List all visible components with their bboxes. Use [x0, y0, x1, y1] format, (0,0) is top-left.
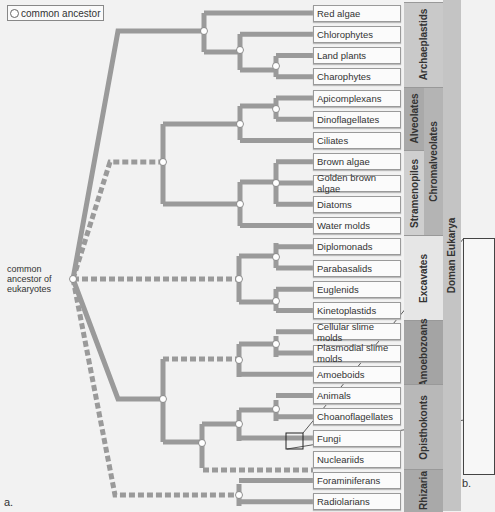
taxon-label: Diplomonads — [313, 238, 401, 255]
clade-label: Chromalveolates — [424, 87, 443, 236]
clade-label-text: Archaeplastids — [418, 9, 429, 81]
taxon-label: Charophytes — [313, 68, 401, 85]
taxon-label: Dinoflagellates — [313, 111, 401, 128]
clade-label: Excavates — [404, 235, 443, 320]
taxon-label: Nucleariids — [313, 451, 401, 468]
taxon-label: Plasmodial slime molds — [313, 345, 401, 362]
clade-label-text: Stramenopiles — [409, 159, 420, 228]
ancestor-node-icon — [273, 63, 280, 70]
clade-label: Rhizaria — [404, 469, 443, 512]
ancestor-node-icon — [273, 106, 280, 113]
ancestor-node-icon — [160, 396, 167, 403]
ancestor-node-icon — [236, 492, 243, 499]
branch — [73, 31, 204, 279]
taxon-label: Ciliates — [313, 132, 401, 149]
legend: common ancestor — [7, 5, 104, 21]
clade-label: Opisthokonts — [404, 384, 443, 469]
uncertain-branch — [73, 162, 163, 279]
taxon-label: Golden brown algae — [313, 175, 401, 192]
taxon-label: Apicomplexans — [313, 90, 401, 107]
ancestor-node-icon — [273, 341, 280, 348]
root-label-line: ancestor of — [7, 274, 52, 284]
root-label-line: eukaryotes — [7, 284, 52, 294]
taxon-label: Diatoms — [313, 196, 401, 213]
taxon-label: Animals — [313, 387, 401, 404]
ancestor-node-icon — [273, 180, 280, 187]
ancestor-node-icon — [236, 421, 243, 428]
branch — [73, 279, 163, 399]
ancestor-node-icon — [236, 357, 243, 364]
root-label: common ancestor of eukaryotes — [7, 264, 52, 294]
uncertain-branch — [202, 462, 313, 470]
taxon-label: Brown algae — [313, 153, 401, 170]
clade-label: Archaeplastids — [404, 2, 443, 87]
taxon-label: Amoeboids — [313, 366, 401, 383]
root-label-line: common — [7, 264, 52, 274]
ancestor-node-icon — [236, 276, 243, 283]
clade-label-text: Chromalveolates — [428, 121, 439, 202]
taxon-label: Kinetoplastids — [313, 302, 401, 319]
taxon-label: Radiolarians — [313, 493, 401, 510]
ancestor-node-icon — [70, 276, 77, 283]
taxon-label: Fungi — [313, 430, 401, 447]
figure-label-b: b. — [462, 477, 471, 489]
ancestor-node-icon — [273, 298, 280, 305]
ancestor-node-icon — [201, 28, 208, 35]
taxon-label: Cellular slime molds — [313, 323, 401, 340]
ancestor-node-icon — [273, 254, 280, 261]
clade-label-text: Rhizaria — [418, 471, 429, 510]
taxon-label: Foraminiferans — [313, 472, 401, 489]
clade-label-text: Alveolates — [409, 94, 420, 144]
ancestor-node-icon — [237, 47, 244, 54]
uncertain-branch — [73, 279, 239, 495]
taxon-label: Red algae — [313, 5, 401, 22]
legend-label: common ancestor — [21, 8, 100, 19]
taxon-label: Choanoflagellates — [313, 408, 401, 425]
ancestor-node-icon — [237, 121, 244, 128]
clade-label: Alveolates — [404, 87, 424, 151]
domain-label: Doman Eukarya — [443, 0, 461, 511]
open-circle-node-icon — [10, 9, 19, 18]
taxon-label: Parabasalids — [313, 260, 401, 277]
figure-label-a: a. — [4, 496, 13, 508]
taxon-label: Water molds — [313, 217, 401, 234]
inset-panel-b — [463, 238, 495, 475]
clade-label: Stramenopiles — [404, 150, 424, 235]
clade-label-text: Amoebozoans — [418, 318, 429, 386]
ancestor-node-icon — [199, 440, 206, 447]
clade-label-text: Opisthokonts — [418, 395, 429, 459]
clade-label-text: Excavates — [418, 254, 429, 303]
taxon-label: Euglenids — [313, 281, 401, 298]
ancestor-node-icon — [273, 406, 280, 413]
ancestor-node-icon — [237, 201, 244, 208]
taxon-label: Chlorophytes — [313, 26, 401, 43]
clade-label: Amoebozoans — [404, 320, 443, 384]
taxon-label: Land plants — [313, 47, 401, 64]
domain-label-text: Doman Eukarya — [447, 218, 458, 294]
ancestor-node-icon — [160, 159, 167, 166]
